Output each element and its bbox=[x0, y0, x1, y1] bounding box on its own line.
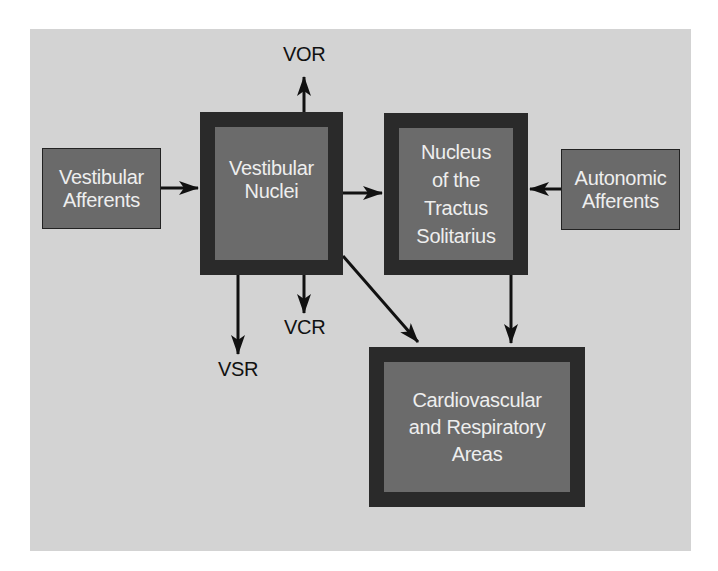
node-text: and Respiratory bbox=[409, 414, 546, 441]
node-text: Vestibular bbox=[229, 157, 314, 180]
output-label-vsr: VSR bbox=[218, 358, 258, 381]
node-vestibular-afferents: Vestibular Afferents bbox=[42, 148, 161, 229]
output-label-vor: VOR bbox=[283, 43, 325, 66]
node-text: of the bbox=[432, 166, 480, 194]
node-text: Afferents bbox=[63, 189, 140, 212]
node-text: Autonomic bbox=[575, 167, 667, 190]
node-nucleus-tractus-solitarius: Nucleus of the Tractus Solitarius bbox=[384, 113, 528, 275]
node-text: Afferents bbox=[582, 190, 659, 213]
node-text: Nuclei bbox=[245, 180, 299, 203]
output-label-vcr: VCR bbox=[284, 316, 325, 339]
node-autonomic-afferents: Autonomic Afferents bbox=[561, 149, 680, 230]
node-cardiovascular-respiratory-areas: Cardiovascular and Respiratory Areas bbox=[369, 347, 585, 507]
node-text: Vestibular bbox=[59, 166, 144, 189]
node-text: Tractus bbox=[424, 194, 488, 222]
node-text: Cardiovascular bbox=[412, 387, 541, 414]
node-text: Solitarius bbox=[416, 222, 495, 250]
node-text: Nucleus bbox=[421, 138, 491, 166]
arrows-layer bbox=[0, 0, 718, 571]
node-text: Areas bbox=[452, 441, 503, 468]
node-vestibular-nuclei: Vestibular Nuclei bbox=[200, 112, 343, 275]
